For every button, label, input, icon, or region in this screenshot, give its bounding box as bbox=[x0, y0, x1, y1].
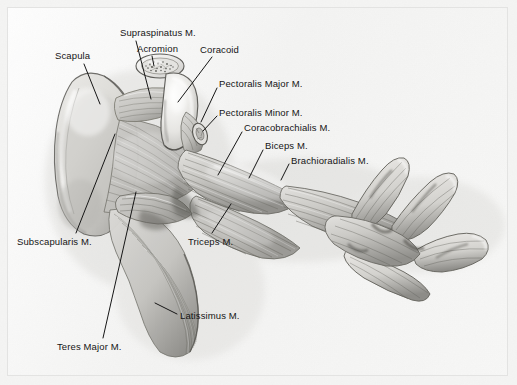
label-pectoralis-minor[interactable]: Pectoralis Minor M. bbox=[219, 107, 303, 118]
label-latissimus[interactable]: Latissimus M. bbox=[180, 310, 240, 321]
label-subscapularis[interactable]: Subscapularis M. bbox=[17, 236, 92, 247]
anatomical-plate: ScapulaSupraspinatus M.AcromionCoracoidP… bbox=[0, 0, 517, 385]
label-supraspinatus[interactable]: Supraspinatus M. bbox=[120, 27, 196, 38]
label-teres-major[interactable]: Teres Major M. bbox=[57, 341, 122, 352]
label-pectoralis-major[interactable]: Pectoralis Major M. bbox=[219, 78, 303, 89]
label-coracoid[interactable]: Coracoid bbox=[200, 44, 239, 55]
label-triceps[interactable]: Triceps M. bbox=[188, 236, 233, 247]
label-brachioradialis[interactable]: Brachioradialis M. bbox=[291, 155, 369, 166]
label-coracobrachialis[interactable]: Coracobrachialis M. bbox=[244, 122, 330, 133]
label-acromion[interactable]: Acromion bbox=[137, 43, 178, 54]
label-scapula[interactable]: Scapula bbox=[55, 50, 90, 61]
label-biceps[interactable]: Biceps M. bbox=[265, 140, 308, 151]
